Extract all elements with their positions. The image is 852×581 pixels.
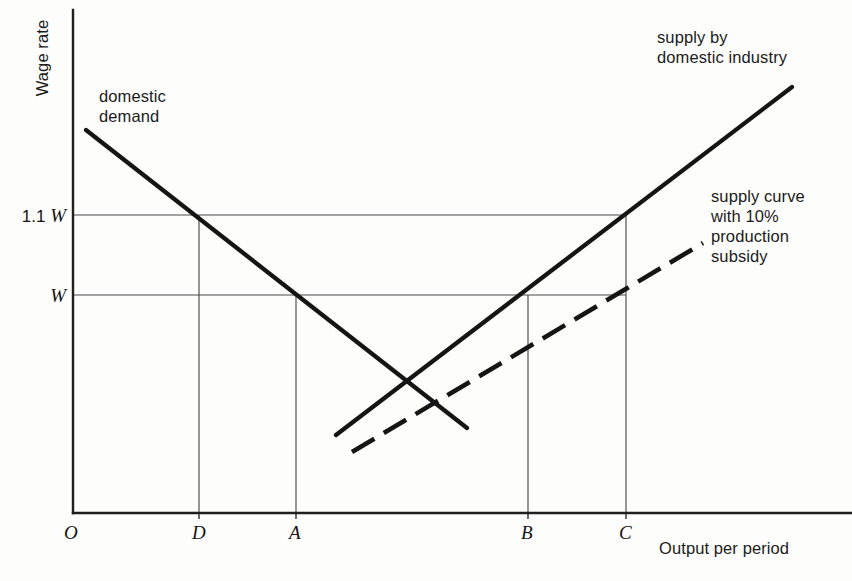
x-tick-label-D: D [192,522,206,544]
x-tick-label-C: C [619,522,632,544]
y-tick-symbol-1-1W: W [50,205,66,226]
curve-domestic-demand [86,130,467,428]
y-tick-symbol-W: W [50,285,66,306]
annotation-domestic-demand: domestic demand [99,86,166,126]
x-tick-label-B: B [521,522,533,544]
y-axis-label: Wage rate [32,0,52,118]
y-tick-label-1-1W: 1.1 W [0,205,66,227]
y-tick-label-W: W [0,285,66,307]
annotation-subsidised-supply: supply curve with 10% production subsidy [711,186,805,266]
supply-demand-figure: Wage rate Output per period 1.1 W W O D … [0,0,852,581]
x-tick-label-A: A [289,522,301,544]
annotation-domestic-supply: supply by domestic industry [657,27,787,67]
x-axis-label: Output per period [659,538,789,558]
y-tick-prefix-1-1W: 1.1 [22,207,50,226]
x-tick-label-origin: O [64,522,78,544]
